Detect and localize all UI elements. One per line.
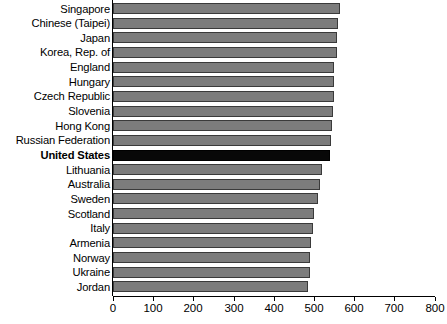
horizontal-bar-chart: SingaporeChinese (Taipei)JapanKorea, Rep…	[0, 0, 447, 324]
bar	[113, 106, 333, 117]
bar	[113, 193, 318, 204]
x-axis-tick-label: 800	[415, 302, 447, 315]
bar	[113, 252, 310, 263]
category-label: Russian Federation	[0, 135, 110, 146]
x-axis-tick	[314, 297, 315, 301]
category-label: Czech Republic	[0, 91, 110, 102]
category-label: Hungary	[0, 77, 110, 88]
bar	[113, 47, 337, 58]
y-axis-line	[112, 0, 113, 296]
x-axis-tick-label: 700	[374, 302, 414, 315]
x-axis-tick	[193, 297, 194, 301]
bar	[113, 18, 338, 29]
category-label: Ukraine	[0, 267, 110, 278]
category-label: Lithuania	[0, 165, 110, 176]
y-axis-category-labels: SingaporeChinese (Taipei)JapanKorea, Rep…	[0, 3, 110, 296]
bar	[113, 208, 314, 219]
bar	[113, 164, 322, 175]
bar	[113, 62, 334, 73]
x-axis-tick	[113, 297, 114, 301]
x-axis-tick-label: 200	[173, 302, 213, 315]
category-label: Sweden	[0, 194, 110, 205]
category-label: Chinese (Taipei)	[0, 18, 110, 29]
x-axis-tick	[354, 297, 355, 301]
category-label: Jordan	[0, 282, 110, 293]
bar	[113, 91, 334, 102]
category-label: Armenia	[0, 238, 110, 249]
x-axis-tick-label: 0	[93, 302, 133, 315]
bar	[113, 179, 320, 190]
bar	[113, 32, 337, 43]
bar	[113, 281, 308, 292]
x-axis-tick	[394, 297, 395, 301]
x-axis-tick	[234, 297, 235, 301]
x-axis-tick	[153, 297, 154, 301]
bar	[113, 120, 332, 131]
x-axis-tick-label: 400	[254, 302, 294, 315]
bar	[113, 135, 331, 146]
category-label: Italy	[0, 223, 110, 234]
category-label: Slovenia	[0, 106, 110, 117]
plot-area	[113, 0, 447, 296]
x-axis-tick-label: 100	[133, 302, 173, 315]
category-label: Australia	[0, 179, 110, 190]
category-label: England	[0, 62, 110, 73]
bar-highlighted	[113, 150, 330, 161]
x-axis-tick-label: 600	[334, 302, 374, 315]
bar	[113, 237, 311, 248]
bar	[113, 76, 334, 87]
category-label: United States	[0, 150, 110, 161]
category-label: Hong Kong	[0, 121, 110, 132]
x-axis-tick	[274, 297, 275, 301]
category-label: Norway	[0, 253, 110, 264]
bar	[113, 223, 313, 234]
bar	[113, 267, 310, 278]
x-axis-tick	[435, 297, 436, 301]
category-label: Singapore	[0, 4, 110, 15]
bar	[113, 3, 340, 14]
category-label: Japan	[0, 33, 110, 44]
category-label: Scotland	[0, 209, 110, 220]
x-axis-tick-label: 300	[214, 302, 254, 315]
category-label: Korea, Rep. of	[0, 47, 110, 58]
x-axis-tick-label: 500	[294, 302, 334, 315]
